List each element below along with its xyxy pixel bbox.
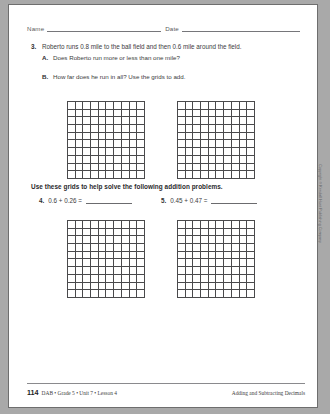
grid-cell[interactable] [99, 221, 107, 229]
grid-cell[interactable] [232, 140, 240, 148]
grid-cell[interactable] [91, 148, 99, 156]
grid-cell[interactable] [122, 244, 130, 252]
grid-cell[interactable] [76, 229, 84, 237]
grid-cell[interactable] [68, 244, 76, 252]
grid-cell[interactable] [201, 148, 209, 156]
grid-cell[interactable] [106, 117, 114, 125]
grid-cell[interactable] [114, 252, 122, 260]
grid-cell[interactable] [106, 156, 114, 164]
problem-5-answer-line[interactable] [211, 197, 257, 204]
grid-cell[interactable] [247, 148, 255, 156]
grid-cell[interactable] [76, 283, 84, 291]
grid-cell[interactable] [122, 252, 130, 260]
grid-cell[interactable] [224, 259, 232, 267]
grid-cell[interactable] [224, 110, 232, 118]
grid-cell[interactable] [68, 156, 76, 164]
grid-cell[interactable] [76, 252, 84, 260]
grid-cell[interactable] [178, 117, 186, 125]
grid-cell[interactable] [201, 259, 209, 267]
grid-cell[interactable] [224, 133, 232, 141]
grid-cell[interactable] [240, 229, 248, 237]
grid-cell[interactable] [240, 283, 248, 291]
grid-cell[interactable] [130, 156, 138, 164]
grid-cell[interactable] [122, 125, 130, 133]
grid-cell[interactable] [137, 140, 145, 148]
grid-cell[interactable] [216, 164, 224, 172]
grid-cell[interactable] [193, 259, 201, 267]
grid-cell[interactable] [137, 110, 145, 118]
grid-cell[interactable] [99, 156, 107, 164]
grid-cell[interactable] [130, 125, 138, 133]
grid-cell[interactable] [224, 290, 232, 298]
grid-cell[interactable] [209, 148, 217, 156]
grid-cell[interactable] [68, 221, 76, 229]
grid-cell[interactable] [178, 221, 186, 229]
grid-cell[interactable] [201, 244, 209, 252]
grid-cell[interactable] [83, 133, 91, 141]
grid-cell[interactable] [224, 140, 232, 148]
grid-cell[interactable] [201, 171, 209, 179]
grid-cell[interactable] [209, 102, 217, 110]
grid-cell[interactable] [240, 259, 248, 267]
grid-cell[interactable] [137, 221, 145, 229]
grid-cell[interactable] [247, 110, 255, 118]
grid-cell[interactable] [178, 236, 186, 244]
grid-cell[interactable] [137, 267, 145, 275]
grid-cell[interactable] [68, 252, 76, 260]
grid-cell[interactable] [201, 283, 209, 291]
grid-cell[interactable] [91, 171, 99, 179]
grid-cell[interactable] [193, 244, 201, 252]
grid-cell[interactable] [68, 229, 76, 237]
grid-cell[interactable] [186, 283, 194, 291]
grid-cell[interactable] [209, 290, 217, 298]
grid-cell[interactable] [216, 244, 224, 252]
grid-cell[interactable] [247, 229, 255, 237]
grid-cell[interactable] [91, 236, 99, 244]
grid-cell[interactable] [178, 252, 186, 260]
grid-cell[interactable] [247, 125, 255, 133]
grid-cell[interactable] [178, 275, 186, 283]
grid-cell[interactable] [201, 290, 209, 298]
grid-cell[interactable] [83, 259, 91, 267]
grid-cell[interactable] [186, 259, 194, 267]
grid-cell[interactable] [186, 244, 194, 252]
grid-cell[interactable] [68, 164, 76, 172]
grid-cell[interactable] [83, 290, 91, 298]
grid-cell[interactable] [137, 244, 145, 252]
grid-cell[interactable] [232, 125, 240, 133]
grid-cell[interactable] [209, 244, 217, 252]
grid-cell[interactable] [83, 283, 91, 291]
grid-cell[interactable] [232, 290, 240, 298]
grid-cell[interactable] [91, 133, 99, 141]
grid-cell[interactable] [193, 164, 201, 172]
grid-cell[interactable] [106, 290, 114, 298]
grid-cell[interactable] [224, 267, 232, 275]
grid-cell[interactable] [122, 267, 130, 275]
grid-cell[interactable] [83, 125, 91, 133]
grid-cell[interactable] [106, 164, 114, 172]
grid-cell[interactable] [247, 164, 255, 172]
grid-cell[interactable] [114, 290, 122, 298]
grid-cell[interactable] [91, 229, 99, 237]
grid-cell[interactable] [178, 156, 186, 164]
grid-cell[interactable] [186, 148, 194, 156]
grid-cell[interactable] [114, 229, 122, 237]
grid-cell[interactable] [186, 140, 194, 148]
grid-cell[interactable] [114, 156, 122, 164]
grid-cell[interactable] [130, 148, 138, 156]
grid-cell[interactable] [83, 110, 91, 118]
grid-cell[interactable] [68, 283, 76, 291]
grid-cell[interactable] [106, 267, 114, 275]
grid-cell[interactable] [193, 267, 201, 275]
grid-cell[interactable] [178, 244, 186, 252]
grid-cell[interactable] [91, 267, 99, 275]
grid-cell[interactable] [232, 221, 240, 229]
grid-cell[interactable] [122, 221, 130, 229]
grid-cell[interactable] [201, 102, 209, 110]
grid-cell[interactable] [137, 102, 145, 110]
grid-cell[interactable] [178, 229, 186, 237]
grid-cell[interactable] [186, 156, 194, 164]
grid-cell[interactable] [224, 171, 232, 179]
grid-cell[interactable] [99, 102, 107, 110]
grid-cell[interactable] [186, 252, 194, 260]
